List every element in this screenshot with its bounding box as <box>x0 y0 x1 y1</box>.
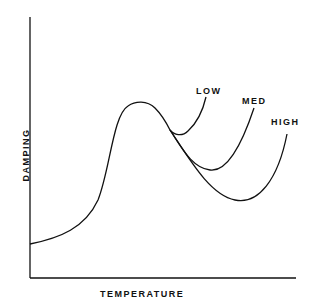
x-axis-label: TEMPERATURE <box>100 289 184 299</box>
low-label: LOW <box>196 86 222 96</box>
low-curve <box>170 97 206 135</box>
chart-plot <box>0 0 311 305</box>
common-curve <box>30 102 170 244</box>
y-axis-label: DAMPING <box>21 125 31 185</box>
med-label: MED <box>242 96 267 106</box>
med-curve <box>170 108 254 170</box>
high-label: HIGH <box>271 117 300 127</box>
high-curve <box>170 130 287 201</box>
